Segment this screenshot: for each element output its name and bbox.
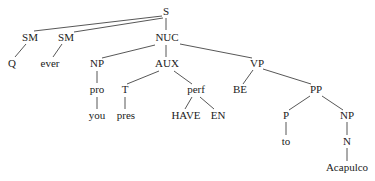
node-ever: ever — [41, 57, 60, 69]
node-aux: AUX — [155, 57, 179, 69]
node-s: S — [163, 5, 169, 17]
node-np-subject: NP — [90, 57, 104, 69]
node-n: N — [343, 135, 351, 147]
node-to: to — [282, 135, 291, 147]
node-t: T — [122, 83, 129, 95]
tree-nodes: S SM SM NUC Q ever NP AUX VP pro T perf … — [8, 5, 369, 173]
node-pp: PP — [310, 83, 322, 95]
node-perf: perf — [187, 83, 205, 95]
node-be: BE — [233, 83, 247, 95]
node-sm-2: SM — [58, 31, 74, 43]
node-p: P — [283, 109, 289, 121]
node-have: HAVE — [171, 109, 200, 121]
node-en: EN — [211, 109, 226, 121]
node-you: you — [89, 109, 106, 121]
node-np-object: NP — [340, 109, 354, 121]
node-pro: pro — [90, 83, 105, 95]
node-acapulco: Acapulco — [326, 161, 369, 173]
syntax-tree: S SM SM NUC Q ever NP AUX VP pro T perf … — [0, 0, 375, 181]
node-q: Q — [8, 57, 16, 69]
node-sm-1: SM — [22, 31, 38, 43]
node-vp: VP — [250, 57, 264, 69]
node-pres: pres — [117, 109, 135, 121]
node-nuc: NUC — [155, 31, 178, 43]
